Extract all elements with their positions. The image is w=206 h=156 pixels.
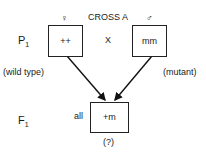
p1-label: P1 [18, 34, 29, 51]
male-phenotype: (mutant) [163, 67, 197, 77]
f1-label: F1 [18, 114, 29, 131]
male-genotype: mm [133, 36, 166, 46]
arrow-from-female [67, 56, 105, 100]
female-genotype: ++ [49, 36, 82, 46]
f1-quantifier: all [74, 111, 83, 121]
f1-genotype-box: +m [90, 102, 129, 133]
cross-symbol: X [105, 35, 111, 45]
female-phenotype: (wild type) [3, 67, 44, 77]
male-symbol-icon: ♂ [146, 13, 153, 23]
female-genotype-box: ++ [48, 25, 83, 57]
arrow-from-male [115, 56, 152, 100]
cross-title: CROSS A [88, 12, 128, 22]
f1-phenotype: (?) [103, 137, 114, 147]
female-symbol-icon: ♀ [61, 13, 68, 23]
f1-genotype: +m [91, 112, 128, 122]
male-genotype-box: mm [132, 25, 167, 57]
